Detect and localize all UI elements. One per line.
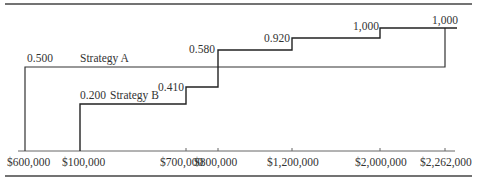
x-tick-label: $100,000	[62, 157, 105, 169]
strategy-b-value-1000: 1,000	[353, 21, 379, 33]
strategy-b-start-value: 0.200	[80, 90, 106, 102]
x-tick-label: $800,000	[194, 157, 237, 169]
strategy-a-start-value: 0.500	[27, 53, 53, 65]
x-tick-label: $1,200,000	[267, 157, 319, 169]
strategy-b-value-920: 0.920	[264, 33, 290, 45]
x-tick-label: $600,000	[7, 157, 50, 169]
strategy-b-value-410: 0.410	[158, 82, 184, 94]
strategy-a-label: Strategy A	[80, 53, 129, 65]
x-tick-label: $2,262,000	[420, 157, 472, 169]
x-tick-label: $2,000,000	[355, 157, 407, 169]
strategy-b-value-580: 0.580	[189, 44, 215, 56]
strategy-b-label: Strategy B	[110, 90, 159, 102]
strategy-a-end-value: 1,000	[432, 15, 458, 27]
